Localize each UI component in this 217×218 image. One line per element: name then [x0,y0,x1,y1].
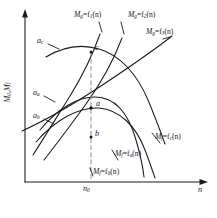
leader-line-f1 [99,22,102,32]
curve-label-mf-fb: Mf=fb(n) [93,168,119,176]
curve-tag-aa: aa [33,89,40,97]
x-tick-label-n0: n0 [83,185,90,193]
point-dot-b [90,136,93,139]
torque-speed-diagram: Mg,Mf n n0 Mg=f1(n) Mg=f2(n) Mg=f3(n) Mf… [0,0,217,218]
curve-label-mg-f2: Mg=f2(n) [128,11,155,19]
point-label-c: c [95,44,99,52]
diagram-canvas [0,0,217,218]
curve-tag-ac: ac [37,37,44,45]
curve-label-mg-f1: Mg=f1(n) [74,11,101,19]
point-dot-a [89,106,92,109]
x-axis-label: n [198,186,202,194]
curve-tag-ab: ab [33,112,40,120]
y-axis-arrowhead [22,9,28,18]
point-label-a: a [96,100,100,108]
leader-line-ac [48,44,59,49]
curve-label-mf-fa: Mf=fa(n) [115,150,141,158]
leader-line-aa [44,96,55,102]
leader-line-f2 [121,22,124,34]
curve-label-mg-f3: Mg=f3(n) [146,28,173,36]
y-axis-label: Mg,Mf [3,70,12,116]
curve-label-mf-fc: Mf=fc(n) [155,133,181,141]
load-curve-fc [46,46,165,144]
point-label-b: b [95,130,99,138]
point-dot-c [90,51,93,54]
